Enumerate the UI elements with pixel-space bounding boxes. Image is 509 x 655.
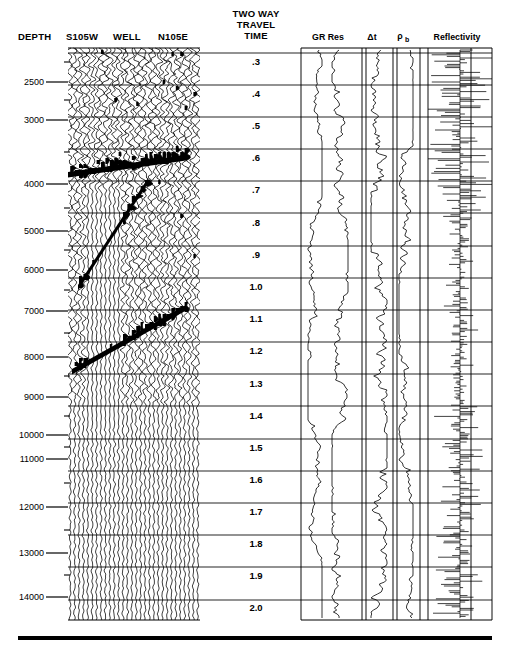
twt-tick-label: 1.5 bbox=[249, 442, 263, 453]
seismic-peak-fill bbox=[185, 106, 188, 110]
twt-header-line2: TRAVEL bbox=[237, 19, 276, 30]
azimuth-left-label: S105W bbox=[66, 31, 98, 42]
twt-tick-label: .9 bbox=[252, 249, 260, 260]
twt-tick-label: 2.0 bbox=[249, 602, 262, 613]
twt-tick-label: .4 bbox=[252, 88, 261, 99]
depth-tick-label: 2500 bbox=[24, 77, 44, 87]
depth-tick-label: 5000 bbox=[24, 226, 44, 236]
twt-tick-label: 1.3 bbox=[249, 378, 262, 389]
track-header-gr-res: GR Res bbox=[312, 32, 344, 42]
depth-tick-label: 12000 bbox=[19, 502, 44, 512]
depth-tick-label: 14000 bbox=[19, 592, 44, 602]
depth-tick-label: 4000 bbox=[24, 179, 44, 189]
depth-tick-label: 3000 bbox=[24, 115, 44, 125]
track-header-rho-b-subscript: b bbox=[405, 36, 409, 43]
twt-tick-label: 1.6 bbox=[249, 474, 262, 485]
track-header-delta-t: Δt bbox=[367, 32, 376, 42]
twt-tick-label: .8 bbox=[252, 217, 260, 228]
depth-tick-label: 6000 bbox=[24, 265, 44, 275]
depth-tick-label: 9000 bbox=[24, 392, 44, 402]
track-header-rho-b: ρ bbox=[397, 31, 403, 41]
twt-header-line1: TWO WAY bbox=[233, 8, 280, 19]
twt-tick-label: 1.9 bbox=[249, 570, 262, 581]
twt-tick-label: 1.2 bbox=[249, 345, 262, 356]
depth-tick-label: 10000 bbox=[19, 430, 44, 440]
depth-header-label: DEPTH bbox=[18, 31, 51, 42]
twt-tick-label: .7 bbox=[252, 184, 260, 195]
seismic-peak-fill bbox=[193, 254, 195, 258]
figure-canvas: DEPTH S105W WELL N105E TWO WAY TRAVEL TI… bbox=[0, 0, 509, 655]
seismic-well-tie-figure: DEPTH S105W WELL N105E TWO WAY TRAVEL TI… bbox=[0, 0, 509, 655]
well-header-label: WELL bbox=[113, 31, 141, 42]
twt-header-line3: TIME bbox=[244, 30, 268, 41]
depth-tick-label: 11000 bbox=[20, 454, 44, 464]
depth-tick-label: 8000 bbox=[24, 352, 44, 362]
depth-tick-label: 7000 bbox=[24, 306, 44, 316]
twt-tick-label: .3 bbox=[252, 56, 260, 67]
azimuth-right-label: N105E bbox=[158, 31, 188, 42]
seismic-peak-fill bbox=[158, 180, 160, 184]
track-header-reflectivity: Reflectivity bbox=[434, 32, 481, 42]
twt-tick-label: .5 bbox=[252, 120, 261, 131]
depth-tick-label: 13000 bbox=[19, 548, 44, 558]
twt-tick-label: .6 bbox=[252, 152, 260, 163]
twt-tick-label: 1.0 bbox=[249, 281, 262, 292]
twt-tick-label: 1.4 bbox=[249, 410, 263, 421]
twt-tick-label: 1.8 bbox=[249, 538, 262, 549]
twt-tick-label: 1.1 bbox=[249, 313, 263, 324]
seismic-peak-fill bbox=[119, 152, 122, 156]
twt-tick-label: 1.7 bbox=[249, 506, 262, 517]
